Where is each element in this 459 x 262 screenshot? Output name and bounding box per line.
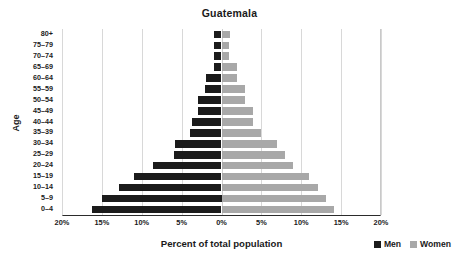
bar-women-60–64 xyxy=(222,74,238,82)
y-tick-20–24: 20–24 xyxy=(0,160,58,171)
y-axis-tick-labels: 80+75–7970–7465–6960–6455–5950–5445–4940… xyxy=(0,29,58,215)
x-tick-7: 15% xyxy=(321,218,361,227)
x-tick-1: 15% xyxy=(82,218,122,227)
bar-women-40–44 xyxy=(222,118,254,126)
bar-men-45–49 xyxy=(198,107,222,115)
x-tick-8: 20% xyxy=(361,218,401,227)
bar-row xyxy=(62,62,381,73)
y-tick-40–44: 40–44 xyxy=(0,117,58,128)
y-tick-10–14: 10–14 xyxy=(0,182,58,193)
bar-men-60–64 xyxy=(206,74,221,82)
x-axis-title: Percent of total population xyxy=(62,238,381,249)
y-tick-35–39: 35–39 xyxy=(0,127,58,138)
bar-women-50–54 xyxy=(222,96,246,104)
gridline-20% xyxy=(381,29,382,215)
bar-row xyxy=(62,171,381,182)
bar-men-25–29 xyxy=(174,151,222,159)
bar-men-75–79 xyxy=(214,42,222,50)
bar-women-45–49 xyxy=(222,107,254,115)
y-tick-55–59: 55–59 xyxy=(0,84,58,95)
bar-men-65–69 xyxy=(214,63,222,71)
y-tick-25–29: 25–29 xyxy=(0,149,58,160)
legend-item-men: Men xyxy=(374,239,401,249)
chart-legend: MenWomen xyxy=(374,239,451,249)
y-tick-0–4: 0–4 xyxy=(0,204,58,215)
bar-women-10–14 xyxy=(222,184,318,192)
y-tick-70–74: 70–74 xyxy=(0,51,58,62)
y-tick-45–49: 45–49 xyxy=(0,106,58,117)
legend-label: Men xyxy=(384,239,401,249)
bar-men-40–44 xyxy=(192,118,222,126)
bar-women-35–39 xyxy=(222,129,262,137)
bar-men-70–74 xyxy=(214,52,222,60)
bar-women-20–24 xyxy=(222,162,294,170)
bar-men-20–24 xyxy=(153,162,222,170)
bar-men-35–39 xyxy=(190,129,222,137)
bar-row xyxy=(62,84,381,95)
y-tick-65–69: 65–69 xyxy=(0,62,58,73)
bar-women-75–79 xyxy=(222,42,230,50)
bar-row xyxy=(62,204,381,215)
bar-row xyxy=(62,73,381,84)
bar-men-80+ xyxy=(214,31,222,39)
bar-men-50–54 xyxy=(198,96,221,104)
x-tick-5: 5% xyxy=(241,218,281,227)
bar-men-5–9 xyxy=(102,195,222,203)
bar-row xyxy=(62,149,381,160)
bar-women-30–34 xyxy=(222,140,278,148)
bar-row xyxy=(62,51,381,62)
bar-row xyxy=(62,106,381,117)
bar-women-0–4 xyxy=(222,206,334,214)
bar-women-70–74 xyxy=(222,52,230,60)
bar-men-55–59 xyxy=(205,85,222,93)
y-tick-50–54: 50–54 xyxy=(0,95,58,106)
y-tick-30–34: 30–34 xyxy=(0,138,58,149)
bar-row xyxy=(62,160,381,171)
bar-row xyxy=(62,95,381,106)
bar-row xyxy=(62,40,381,51)
legend-swatch-icon xyxy=(374,241,381,248)
bar-men-15–19 xyxy=(134,173,222,181)
legend-item-women: Women xyxy=(410,239,451,249)
x-tick-3: 5% xyxy=(162,218,202,227)
y-tick-75–79: 75–79 xyxy=(0,40,58,51)
bar-row xyxy=(62,127,381,138)
bar-men-30–34 xyxy=(175,140,221,148)
bar-row xyxy=(62,29,381,40)
bar-men-10–14 xyxy=(119,184,221,192)
legend-swatch-icon xyxy=(410,241,417,248)
x-tick-4: 0% xyxy=(202,218,242,227)
bar-row xyxy=(62,138,381,149)
bar-women-15–19 xyxy=(222,173,310,181)
y-tick-5–9: 5–9 xyxy=(0,193,58,204)
y-tick-60–64: 60–64 xyxy=(0,73,58,84)
bars-container xyxy=(62,29,381,215)
y-tick-80+: 80+ xyxy=(0,29,58,40)
x-tick-0: 20% xyxy=(42,218,82,227)
bar-women-65–69 xyxy=(222,63,238,71)
y-tick-15–19: 15–19 xyxy=(0,171,58,182)
legend-label: Women xyxy=(420,239,451,249)
bar-row xyxy=(62,182,381,193)
bar-women-5–9 xyxy=(222,195,326,203)
x-tick-2: 10% xyxy=(122,218,162,227)
bar-men-0–4 xyxy=(92,206,222,214)
population-pyramid-chart: Guatemala Age 80+75–7970–7465–6960–6455–… xyxy=(0,0,459,262)
bar-row xyxy=(62,193,381,204)
x-tick-6: 10% xyxy=(281,218,321,227)
bar-women-55–59 xyxy=(222,85,246,93)
bar-women-80+ xyxy=(222,31,231,39)
bar-row xyxy=(62,117,381,128)
bar-women-25–29 xyxy=(222,151,286,159)
x-axis-tick-labels: 20%15%10%5%0%5%10%15%20% xyxy=(62,218,381,230)
chart-title: Guatemala xyxy=(0,7,459,19)
